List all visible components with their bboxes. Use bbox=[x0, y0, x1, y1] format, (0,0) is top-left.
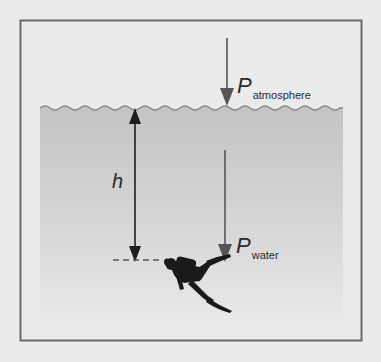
atmosphere-pressure-subscript: atmosphere bbox=[253, 89, 311, 101]
depth-label: h bbox=[112, 171, 123, 191]
water-pressure-subscript: water bbox=[252, 249, 279, 261]
diagram-canvas: Patmosphere Pwater h bbox=[0, 0, 381, 362]
diagram-svg bbox=[0, 0, 381, 362]
water-pressure-symbol: P bbox=[236, 233, 251, 258]
atmosphere-pressure-label: Patmosphere bbox=[237, 75, 311, 97]
atmosphere-arrow-icon bbox=[220, 38, 234, 106]
atmosphere-pressure-symbol: P bbox=[237, 73, 252, 98]
water-pressure-label: Pwater bbox=[236, 235, 279, 257]
water-body bbox=[40, 106, 343, 320]
